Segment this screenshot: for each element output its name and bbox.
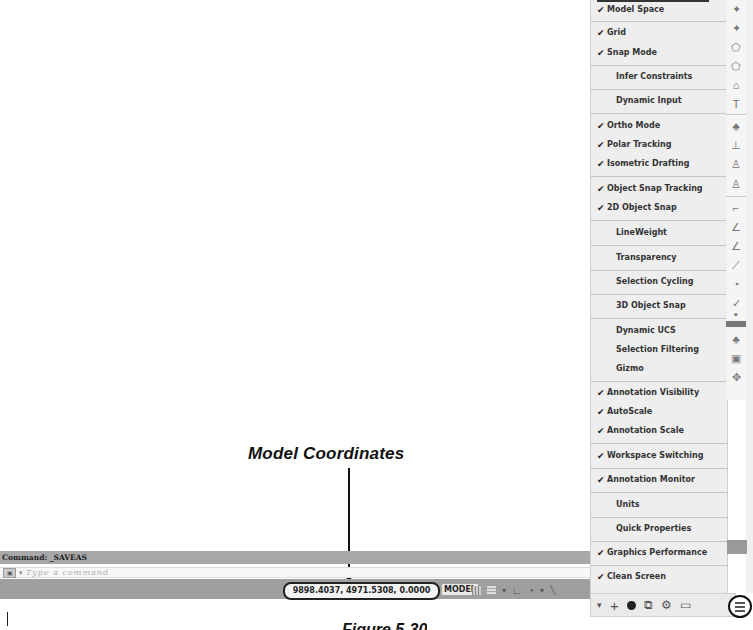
chevron-down-icon[interactable]: ▾ <box>502 586 506 595</box>
menu-separator <box>591 245 727 246</box>
coordinates-display[interactable]: 9898.4037, 4971.5308, 0.0000 <box>283 582 440 600</box>
workspace-icon[interactable]: ⚙ <box>661 598 672 612</box>
check-icon: ✔ <box>597 117 607 135</box>
check-icon: ✔ <box>597 471 607 489</box>
plus-icon[interactable]: + <box>610 597 619 614</box>
isometric-icon[interactable]: ╲ <box>550 585 555 595</box>
menu-separator <box>591 21 727 22</box>
check-icon: ✔ <box>597 155 607 173</box>
menu-item-gizmo[interactable]: Gizmo <box>591 360 727 378</box>
menu-item-clean-screen[interactable]: ✔Clean Screen <box>591 568 727 586</box>
check-icon: ✔ <box>597 24 607 42</box>
menu-item-lineweight[interactable]: LineWeight <box>591 224 727 242</box>
command-prompt-icon[interactable]: ▣ <box>3 568 16 578</box>
menu-item-selection-cycling[interactable]: Selection Cycling <box>591 273 727 291</box>
isometric-drafting-icon[interactable]: ♙ <box>728 156 744 172</box>
menu-item-transparency[interactable]: Transparency <box>591 249 727 267</box>
check-icon: ✔ <box>597 544 607 562</box>
snap-mode-icon[interactable] <box>487 586 496 595</box>
menu-bottom-toolbar: ▾ + ⧉ ⚙ ▭ <box>590 593 736 617</box>
check-icon: ✔ <box>597 403 607 421</box>
hardware-acceleration-icon[interactable] <box>627 601 636 610</box>
check-icon: ✔ <box>597 447 607 465</box>
dynamic-input-icon[interactable]: ⌂ <box>728 77 744 93</box>
menu-item-selection-filtering[interactable]: Selection Filtering <box>591 341 727 359</box>
menu-separator <box>591 443 727 444</box>
check-icon: ✔ <box>597 136 607 154</box>
chevron-down-icon[interactable]: ▾ <box>19 569 23 577</box>
lineweight-icon[interactable]: ∠ <box>728 219 744 235</box>
ortho-mode-icon[interactable]: ♣ <box>728 118 744 134</box>
menu-separator <box>591 176 727 177</box>
menu-separator <box>591 492 727 493</box>
callout-label: Model Coordinates <box>248 444 404 464</box>
check-icon: ✔ <box>597 180 607 198</box>
ortho-icon[interactable]: ∟ <box>512 585 522 596</box>
menu-item-annotation-scale[interactable]: ✔Annotation Scale <box>591 422 727 440</box>
grid-icon[interactable]: ✦ <box>728 20 744 36</box>
menu-separator <box>591 65 727 66</box>
menu-item-model-space[interactable]: ✔Model Space <box>591 1 727 19</box>
menu-item-dynamic-input[interactable]: Dynamic Input <box>591 92 727 110</box>
selection-cycling-icon[interactable]: ⟋ <box>728 257 744 273</box>
menu-item-3d-object-snap[interactable]: 3D Object Snap <box>591 297 727 315</box>
menu-separator <box>591 270 727 271</box>
transparency-icon[interactable]: ∠ <box>728 238 744 254</box>
menu-item-polar-tracking[interactable]: ✔Polar Tracking <box>591 136 727 154</box>
annotation-scale-icon[interactable]: ✥ <box>728 369 744 385</box>
status-bar-icon-column: ✦ ✦ ⬠ ⬠ ⌂ T ♣ ⊥ ♙ ♙ ⌐ ∠ ∠ ⟋ ◔ ✓ ▪ ♣ ▣ ✥ <box>726 0 747 400</box>
menu-separator <box>591 468 727 469</box>
clean-screen-icon[interactable]: ▭ <box>680 598 691 612</box>
menu-item-annotation-monitor[interactable]: ✔Annotation Monitor <box>591 471 727 489</box>
customization-menu-button[interactable] <box>728 595 752 618</box>
text-icon[interactable]: T <box>728 96 744 112</box>
infer-constraints-icon[interactable]: ⬠ <box>728 58 744 74</box>
check-icon: ✔ <box>597 384 607 402</box>
menu-item-isometric-drafting[interactable]: ✔Isometric Drafting <box>591 155 727 173</box>
command-input-placeholder: Type a command <box>26 568 109 577</box>
object-snap-tracking-icon[interactable]: ♙ <box>728 176 744 192</box>
hamburger-line <box>735 610 745 612</box>
menu-item-dynamic-ucs[interactable]: Dynamic UCS <box>591 322 727 340</box>
menu-item-ortho-mode[interactable]: ✔Ortho Mode <box>591 117 727 135</box>
menu-separator <box>591 294 727 295</box>
model-space-icon[interactable]: ✦ <box>728 1 744 17</box>
menu-item-autoscale[interactable]: ✔AutoScale <box>591 403 727 421</box>
menu-separator <box>591 565 727 566</box>
icon-separator <box>726 196 746 197</box>
isolate-objects-icon[interactable]: ⧉ <box>644 598 653 612</box>
autoscale-icon[interactable]: ▣ <box>728 350 744 366</box>
menu-item-graphics-performance[interactable]: ✔Graphics Performance <box>591 544 727 562</box>
check-icon: ✔ <box>597 422 607 440</box>
grid-icon[interactable] <box>472 586 481 595</box>
selection-filtering-icon[interactable]: ▪ <box>728 306 744 322</box>
menu-item-infer-constraints[interactable]: Infer Constraints <box>591 68 727 86</box>
chevron-down-icon[interactable]: ▾ <box>597 600 602 610</box>
3d-object-snap-icon[interactable]: ◔ <box>728 276 744 292</box>
snap-icon[interactable]: ⬠ <box>728 39 744 55</box>
menu-separator <box>591 318 727 319</box>
check-icon: ✔ <box>597 44 607 62</box>
annotation-visibility-icon[interactable]: ♣ <box>728 331 744 347</box>
menu-item-grid[interactable]: ✔Grid <box>591 24 727 42</box>
menu-item-workspace-switching[interactable]: ✔Workspace Switching <box>591 447 727 465</box>
menu-item-snap-mode[interactable]: ✔Snap Mode <box>591 44 727 62</box>
polar-tracking-icon[interactable]: ⊥ <box>728 137 744 153</box>
menu-item-2d-object-snap[interactable]: ✔2D Object Snap <box>591 199 727 217</box>
command-history: Command: _SAVEAS <box>0 551 590 564</box>
polar-tracking-icon[interactable]: ◔ <box>528 585 534 596</box>
figure-caption: Figure 5-30 <box>342 616 427 630</box>
object-snap-icon[interactable]: ⌐ <box>728 200 744 216</box>
menu-item-units[interactable]: Units <box>591 496 727 514</box>
status-bar-customization-menu: ✔Model Space ✔Grid ✔Snap Mode Infer Cons… <box>590 0 728 593</box>
menu-separator <box>591 220 727 221</box>
menu-item-quick-properties[interactable]: Quick Properties <box>591 520 727 538</box>
menu-item-annotation-visibility[interactable]: ✔Annotation Visibility <box>591 384 727 402</box>
scroll-block <box>727 540 747 554</box>
menu-item-object-snap-tracking[interactable]: ✔Object Snap Tracking <box>591 180 727 198</box>
command-input[interactable]: ▣ ▾ Type a command <box>0 567 590 578</box>
menu-separator <box>591 113 727 114</box>
text-cursor <box>7 612 8 626</box>
check-icon: ✔ <box>597 568 607 586</box>
chevron-down-icon[interactable]: ▾ <box>540 586 544 595</box>
